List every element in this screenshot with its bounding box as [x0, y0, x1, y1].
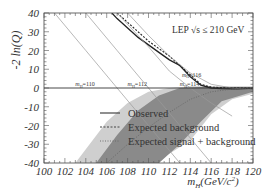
- y-tick-label: -10: [24, 101, 39, 113]
- chart-title: LEP √s ≤ 210 GeV: [172, 25, 244, 35]
- x-tick-label: 110: [141, 165, 157, 177]
- x-tick-label: 112: [162, 165, 178, 177]
- legend-label: Expected signal + background: [128, 136, 256, 147]
- legend-label: Observed: [128, 108, 169, 119]
- y-tick-label: 30: [27, 26, 40, 38]
- x-tick-label: 104: [78, 165, 95, 177]
- y-tick-label: 0: [34, 82, 40, 94]
- x-axis-label: mH(GeV/c2): [187, 175, 239, 190]
- mass-annotation: mH=112: [128, 81, 147, 89]
- annotations: mH=110mH=112mH=114mH=116: [75, 72, 201, 89]
- y-tick-label: 10: [28, 63, 40, 75]
- x-tick-label: 106: [98, 165, 115, 177]
- x-tick-label: 108: [119, 165, 136, 177]
- y-tick-label: 20: [28, 45, 40, 57]
- y-tick-label: -40: [24, 157, 39, 169]
- y-tick-label: 40: [28, 7, 40, 19]
- chart: 1001021041061081101121141161181204030201…: [0, 0, 274, 193]
- x-tick-label: 120: [245, 165, 262, 177]
- y-tick-label: -20: [24, 120, 39, 132]
- x-tick-label: 102: [57, 165, 74, 177]
- mass-annotation: mH=110: [75, 81, 94, 89]
- y-tick-label: -30: [24, 138, 39, 150]
- legend-label: Expected background: [128, 122, 220, 133]
- y-axis-label: -2 ln(Q): [9, 31, 23, 70]
